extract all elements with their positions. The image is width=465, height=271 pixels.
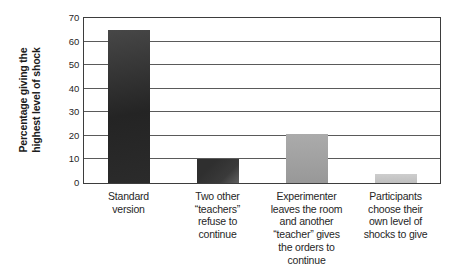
y-tick-label: 40 xyxy=(69,84,79,94)
category-label: Standard version xyxy=(83,190,175,215)
bar xyxy=(108,30,150,183)
y-tick-label: 30 xyxy=(69,107,79,117)
y-tick-label: 70 xyxy=(69,13,79,23)
bar xyxy=(197,159,239,183)
category-label: Two other “teachers” refuse to continue xyxy=(172,190,264,241)
bar xyxy=(375,174,417,183)
category-label: Participants choose their own level of s… xyxy=(350,190,442,241)
y-tick-label: 10 xyxy=(69,154,79,164)
y-tick-label: 60 xyxy=(69,37,79,47)
category-label: Experimenter leaves the room and another… xyxy=(261,190,353,266)
y-tick-label: 20 xyxy=(69,131,79,141)
bar-chart-figure: Percentage giving the highest level of s… xyxy=(0,0,465,271)
y-tick-label: 50 xyxy=(69,60,79,70)
y-axis-title: Percentage giving the highest level of s… xyxy=(17,40,43,160)
plot-area xyxy=(83,17,441,184)
y-tick-label: 0 xyxy=(74,178,79,188)
bar xyxy=(286,134,328,184)
